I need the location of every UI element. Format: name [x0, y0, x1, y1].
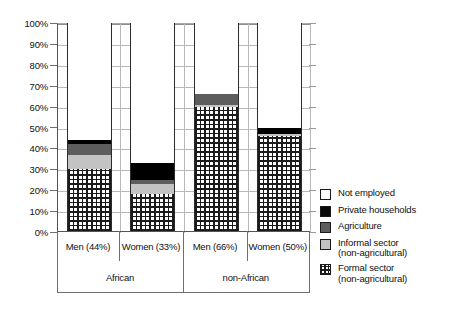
y-tick-mark-0 [50, 232, 57, 233]
y-tick-mark-90 [50, 44, 57, 45]
group-separator-1 [120, 24, 121, 233]
x-label-women-non-african: Women (50%) [247, 231, 309, 261]
right-tick-marks [309, 23, 317, 232]
legend-label-agriculture: Agriculture [338, 221, 382, 232]
y-tick-mark-30 [50, 169, 57, 170]
x-group-label-non-african: non-African [183, 261, 309, 293]
y-tick-label-50: 50% [4, 123, 48, 134]
segment-formal-sector [67, 169, 112, 232]
group-separator-3 [248, 24, 249, 233]
group-separator-2 [184, 24, 185, 233]
legend-swatch-informal-sector-icon [320, 239, 331, 250]
x-axis-category-labels: Men (44%) Women (33%) Men (66%) Women (5… [57, 231, 310, 261]
legend-item-informal-sector[interactable]: Informal sector(non-agricultural) [320, 238, 448, 259]
x-group-label-african: African [57, 261, 183, 293]
legend-label-informal-sector-line1: Informal sector [338, 237, 399, 248]
segment-formal-sector [130, 194, 175, 232]
legend-label-private-households: Private households [338, 205, 416, 216]
y-tick-label-100: 100% [4, 18, 48, 29]
segment-private-households [130, 163, 175, 180]
legend-item-formal-sector[interactable]: Formal sector(non-agricultural) [320, 263, 448, 284]
y-tick-mark-40 [50, 148, 57, 149]
y-tick-label-80: 80% [4, 60, 48, 71]
y-tick-mark-80 [50, 65, 57, 66]
y-tick-mark-60 [50, 107, 57, 108]
x-label-men-african: Men (44%) [57, 231, 119, 261]
legend-swatch-agriculture-icon [320, 222, 331, 233]
segment-informal-sector [67, 155, 112, 170]
y-tick-label-70: 70% [4, 81, 48, 92]
y-tick-label-0: 0% [4, 227, 48, 238]
segment-not-employed [130, 23, 175, 163]
segment-informal-sector [130, 184, 175, 194]
y-tick-label-10: 10% [4, 206, 48, 217]
y-tick-label-20: 20% [4, 185, 48, 196]
x-axis-group-labels: African non-African [57, 261, 310, 293]
y-tick-mark-50 [50, 127, 57, 128]
legend-swatch-private-households-icon [320, 206, 331, 217]
y-tick-label-90: 90% [4, 39, 48, 50]
bar-men-non-african[interactable] [194, 23, 239, 232]
segment-formal-sector [194, 107, 239, 232]
legend-swatch-not-employed-icon [320, 189, 331, 200]
y-tick-mark-70 [50, 86, 57, 87]
legend-swatch-formal-sector-icon [320, 264, 331, 275]
segment-agriculture [67, 144, 112, 154]
legend-item-agriculture[interactable]: Agriculture [320, 221, 448, 233]
x-axis-frame-bottom [57, 292, 310, 293]
y-tick-label-60: 60% [4, 102, 48, 113]
bar-men-african[interactable] [67, 23, 112, 232]
y-tick-mark-20 [50, 190, 57, 191]
stacked-bar-chart: 100% 90% 80% 70% 60% 50% 40% 30% 20% 10%… [0, 0, 452, 320]
y-tick-mark-10 [50, 211, 57, 212]
segment-not-employed [257, 23, 302, 128]
legend-item-not-employed[interactable]: Not employed [320, 188, 448, 200]
segment-agriculture [194, 94, 239, 104]
segment-formal-sector [257, 136, 302, 232]
legend-label-formal-sector-line2: (non-agricultural) [338, 274, 407, 285]
y-tick-mark-100 [50, 23, 57, 24]
y-tick-label-30: 30% [4, 164, 48, 175]
bar-women-african[interactable] [130, 23, 175, 232]
legend-label-formal-sector: Formal sector(non-agricultural) [338, 263, 407, 284]
legend-label-informal-sector-line2: (non-agricultural) [338, 248, 407, 259]
segment-not-employed [67, 23, 112, 140]
legend: Not employed Private households Agricult… [320, 188, 448, 289]
legend-label-informal-sector: Informal sector(non-agricultural) [338, 238, 407, 259]
plot-area [57, 23, 309, 232]
segment-not-employed [194, 23, 239, 94]
legend-label-formal-sector-line1: Formal sector [338, 262, 394, 273]
legend-label-not-employed: Not employed [338, 188, 395, 199]
y-tick-label-40: 40% [4, 143, 48, 154]
legend-item-private-households[interactable]: Private households [320, 205, 448, 217]
x-label-women-african: Women (33%) [119, 231, 183, 261]
bar-women-non-african[interactable] [257, 23, 302, 232]
x-label-men-non-african: Men (66%) [183, 231, 247, 261]
